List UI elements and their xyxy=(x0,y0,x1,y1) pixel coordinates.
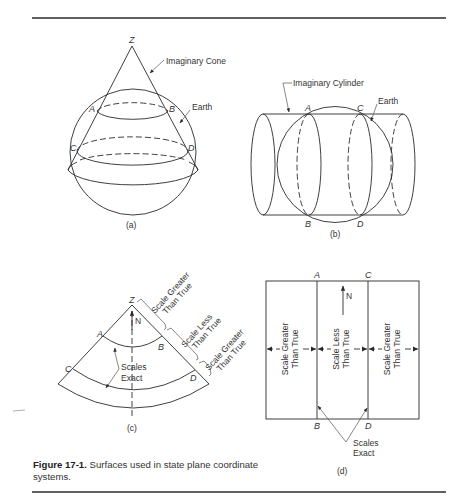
scales-exact-line1-d: Scales xyxy=(353,438,379,448)
figure-caption: Figure 17-1. Surfaces used in state plan… xyxy=(33,459,263,483)
parallel-ab-back xyxy=(97,103,168,111)
north-label-d: N xyxy=(346,291,352,301)
zone-label-d-2: Scale Less Than True xyxy=(331,328,351,370)
zone-label-d-3: Scale Greater Than True xyxy=(382,323,402,376)
parallel-ab-front xyxy=(97,111,168,119)
parallel-cd-front xyxy=(77,151,188,165)
scales-exact-leader-up xyxy=(115,348,119,369)
point-c-label-b: C xyxy=(357,103,364,113)
panel-b-cylinder: Imaginary Cylinder Earth A C B D (b) xyxy=(251,78,415,239)
point-a-label-d: A xyxy=(313,270,320,280)
point-a-label-c: A xyxy=(96,329,103,339)
zone-d-3-line1: Scale Greater xyxy=(382,323,392,376)
cylinder-right-end-front xyxy=(403,114,415,215)
scales-exact-leader-b xyxy=(318,406,346,442)
point-d-label-b: D xyxy=(357,219,364,229)
cylinder-leader xyxy=(283,83,292,112)
point-c-label-c: C xyxy=(65,364,72,374)
section-cd-front xyxy=(360,114,372,215)
standard-parallel-ab xyxy=(103,336,162,347)
sector-outer-arc xyxy=(58,384,209,408)
stray-mark xyxy=(13,410,25,411)
scales-exact-leader-d xyxy=(346,408,367,442)
zone-d-2-line1: Scale Less xyxy=(331,328,341,370)
panel-d-cylinder-sheet: N Scale Greater Than True Scale Less Tha… xyxy=(266,270,419,476)
point-d-label-c: D xyxy=(190,373,197,383)
apex-z-label-c: Z xyxy=(128,295,135,305)
cone-leader xyxy=(150,60,164,73)
panel-a-cone: Z A B C D Imaginary Cone Earth (a) xyxy=(68,35,226,230)
imaginary-cone-label: Imaginary Cone xyxy=(166,56,226,66)
parallel-cd-back xyxy=(77,137,188,151)
panel-b-sublabel: (b) xyxy=(330,229,341,239)
cone-base-back xyxy=(80,154,186,160)
earth-sphere-b xyxy=(277,107,393,223)
zone-label-c-1: Scale Greater Than True xyxy=(149,270,198,322)
panel-c-cone-sector: Z N A B C D Scales Exact Scale Greater T… xyxy=(58,270,252,433)
point-a-label: A xyxy=(88,104,95,114)
zone-d-2-line2: Than True xyxy=(341,329,351,368)
point-c-label: C xyxy=(70,143,77,153)
point-d-label-d: D xyxy=(365,421,372,431)
section-ab-back xyxy=(297,114,309,215)
zone-label-c-2: Scale Less Than True xyxy=(179,309,223,355)
zone-label-d-1: Scale Greater Than True xyxy=(280,323,300,376)
apex-z-label: Z xyxy=(128,35,135,45)
figure-canvas: Z A B C D Imaginary Cone Earth (a) Imagi… xyxy=(0,0,459,502)
cone-base-front xyxy=(68,170,198,185)
scales-exact-line1-c: Scales xyxy=(121,362,147,372)
zone-d-3-line2: Than True xyxy=(392,329,402,368)
point-a-label-b: A xyxy=(304,103,311,113)
scales-exact-line2-d: Exact xyxy=(353,448,375,458)
point-b-label-d: B xyxy=(314,421,320,431)
zone-d-1-line1: Scale Greater xyxy=(280,323,290,376)
point-b-label-b: B xyxy=(305,219,311,229)
earth-label-b: Earth xyxy=(378,96,399,106)
earth-leader-b xyxy=(371,104,377,121)
point-b-label: B xyxy=(169,104,175,114)
scales-exact-leader-down xyxy=(106,369,119,388)
north-label-c: N xyxy=(135,316,141,326)
section-ab-front xyxy=(309,114,321,215)
zone-d-1-line2: Than True xyxy=(290,329,300,368)
panel-a-sublabel: (a) xyxy=(126,220,137,230)
figure-number: Figure 17-1. xyxy=(33,459,87,470)
panel-d-sublabel: (d) xyxy=(337,466,348,476)
cylinder-left-end xyxy=(251,114,275,215)
section-cd-back xyxy=(348,114,360,215)
point-d-label: D xyxy=(188,143,195,153)
earth-label-a: Earth xyxy=(192,102,213,112)
point-b-label-c: B xyxy=(158,342,164,352)
point-c-label-d: C xyxy=(365,270,372,280)
scales-exact-line2-c: Exact xyxy=(121,373,143,383)
panel-c-sublabel: (c) xyxy=(127,423,137,433)
imaginary-cylinder-label: Imaginary Cylinder xyxy=(293,78,364,88)
